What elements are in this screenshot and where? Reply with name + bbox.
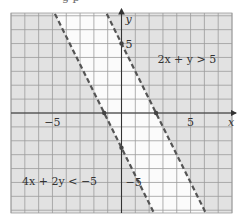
intercept-point (154, 111, 158, 115)
region-annotation: 2x + y > 5 (157, 53, 216, 66)
y-tick-label: −5 (126, 176, 142, 189)
y-tick-label: 5 (126, 38, 133, 51)
intercept-point (119, 41, 123, 45)
region-annotation: 4x + 2y < −5 (22, 175, 97, 188)
intercept-point (102, 111, 106, 115)
x-axis-label: x (228, 116, 235, 129)
intercept-point (119, 146, 123, 150)
x-tick-label: −5 (44, 116, 60, 129)
x-tick-label: 5 (187, 116, 194, 129)
inequality-graph: xy−555−52x + y > 54x + 2y < −5 (0, 0, 241, 221)
y-axis-label: y (125, 13, 133, 26)
